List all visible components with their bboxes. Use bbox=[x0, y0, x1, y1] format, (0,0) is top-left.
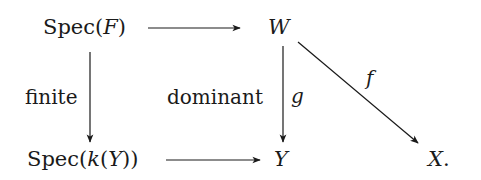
label-dominant: dominant bbox=[167, 87, 263, 107]
x-period: . bbox=[443, 147, 450, 171]
node-x: X. bbox=[428, 149, 450, 170]
label-g: g bbox=[291, 86, 304, 106]
node-spec-ky: Spec(k(Y)) bbox=[27, 149, 138, 170]
label-f: f bbox=[366, 68, 373, 88]
spec-ky-prefix: Spec( bbox=[27, 147, 87, 171]
spec-f-suffix: ) bbox=[118, 15, 126, 39]
spec-f-prefix: Spec( bbox=[43, 15, 103, 39]
spec-ky-suffix: )) bbox=[122, 147, 138, 171]
spec-ky-mid: ( bbox=[100, 147, 108, 171]
node-y: Y bbox=[274, 149, 288, 170]
node-w: W bbox=[268, 17, 290, 38]
arrow-w-to-x bbox=[298, 42, 418, 143]
spec-ky-y: Y bbox=[108, 147, 122, 171]
x-var: X bbox=[428, 147, 443, 171]
spec-f-var: F bbox=[103, 15, 118, 39]
spec-ky-k: k bbox=[87, 147, 100, 171]
label-finite: finite bbox=[25, 87, 78, 107]
node-spec-f: Spec(F) bbox=[43, 17, 126, 38]
